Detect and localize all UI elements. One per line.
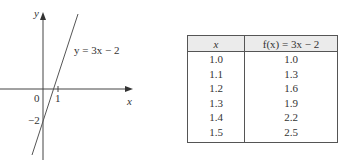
table-row: 1.1 1.3 <box>188 67 338 82</box>
cell-x: 1.1 <box>188 67 245 82</box>
cell-fx: 2.2 <box>245 110 338 125</box>
x-axis-arrow-icon <box>125 86 133 92</box>
cell-x: 1.3 <box>188 96 245 111</box>
y-intercept-label: −2 <box>28 115 40 126</box>
y-axis-arrow-icon <box>40 12 46 20</box>
cell-fx: 1.9 <box>245 96 338 111</box>
graph-canvas <box>0 0 175 167</box>
line-equation-label: y = 3x − 2 <box>74 45 119 56</box>
x-tick-label: 1 <box>55 93 61 104</box>
cell-x: 1.2 <box>188 81 245 96</box>
cell-fx: 1.0 <box>245 52 338 67</box>
table-row: 1.4 2.2 <box>188 110 338 125</box>
y-axis-label: y <box>34 8 39 19</box>
function-line <box>32 14 78 155</box>
cell-fx: 1.6 <box>245 81 338 96</box>
cell-x: 1.4 <box>188 110 245 125</box>
cell-fx: 2.5 <box>245 125 338 143</box>
table-row: 1.3 1.9 <box>188 96 338 111</box>
header-x: x <box>188 36 245 52</box>
function-graph: y x 0 1 −2 y = 3x − 2 <box>0 0 175 167</box>
table-row: 1.2 1.6 <box>188 81 338 96</box>
origin-label: 0 <box>34 93 40 104</box>
table-row: 1.5 2.5 <box>188 125 338 143</box>
table-header-row: x f(x) = 3x − 2 <box>188 36 338 52</box>
cell-x: 1.0 <box>188 52 245 67</box>
cell-fx: 1.3 <box>245 67 338 82</box>
table-row: 1.0 1.0 <box>188 52 338 67</box>
header-fx: f(x) = 3x − 2 <box>245 36 338 52</box>
values-table: x f(x) = 3x − 2 1.0 1.0 1.1 1.3 1.2 1.6 … <box>187 35 338 143</box>
x-axis-label: x <box>127 96 132 107</box>
cell-x: 1.5 <box>188 125 245 143</box>
